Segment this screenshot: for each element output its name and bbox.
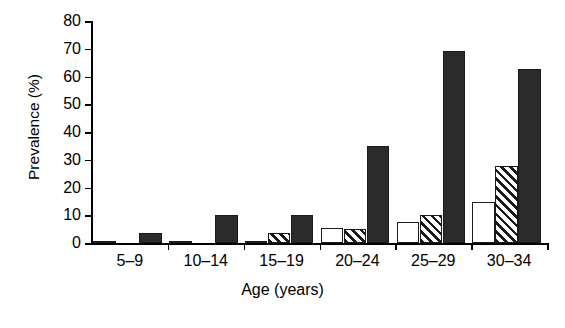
y-tick-mark [85, 21, 92, 23]
y-tick-mark [85, 104, 92, 106]
bar-open [93, 241, 116, 243]
x-tick-mark [547, 243, 549, 250]
bar-solid [367, 146, 390, 243]
bar-open [169, 241, 192, 243]
y-axis-title: Prevalence (%) [25, 7, 43, 247]
y-tick-mark [85, 77, 92, 79]
plot-area: 01020304050607080 [92, 21, 547, 243]
bar-group [395, 21, 471, 243]
x-tick-mark [244, 243, 246, 250]
bar-group [320, 21, 396, 243]
y-tick-label: 30 [63, 151, 81, 169]
bar-hatched [495, 166, 518, 243]
y-tick-label: 80 [63, 12, 81, 30]
y-tick-mark [85, 188, 92, 190]
y-tick-mark [85, 215, 92, 217]
bar-solid [215, 215, 238, 243]
y-tick-mark [85, 132, 92, 134]
bar-group [244, 21, 320, 243]
bar-solid [139, 233, 162, 243]
y-tick-label: 60 [63, 68, 81, 86]
y-tick-mark [85, 160, 92, 162]
x-tick-mark [471, 243, 473, 250]
x-tick-mark [168, 243, 170, 250]
bar-hatched [420, 215, 443, 243]
x-axis-title: Age (years) [0, 281, 565, 299]
bar-solid [518, 69, 541, 243]
bar-hatched [268, 233, 291, 243]
bar-group [168, 21, 244, 243]
bar-hatched [344, 229, 367, 243]
y-tick-label: 70 [63, 40, 81, 58]
y-tick-mark [85, 49, 92, 51]
bar-open [245, 241, 268, 243]
bar-solid [291, 215, 314, 243]
x-tick-label: 15–19 [259, 252, 304, 270]
y-tick-label: 50 [63, 95, 81, 113]
bar-open [397, 222, 420, 243]
chart-figure: Prevalence (%) 01020304050607080 5–910–1… [0, 0, 565, 328]
y-tick-label: 20 [63, 179, 81, 197]
x-tick-label: 10–14 [184, 252, 229, 270]
x-tick-mark [320, 243, 322, 250]
y-tick-label: 0 [72, 234, 81, 252]
bar-solid [443, 51, 466, 243]
y-tick-label: 40 [63, 123, 81, 141]
x-tick-label: 30–34 [487, 252, 532, 270]
y-tick-mark [85, 243, 92, 245]
x-tick-label: 25–29 [411, 252, 456, 270]
x-tick-label: 20–24 [335, 252, 380, 270]
x-tick-mark [395, 243, 397, 250]
bar-group [471, 21, 547, 243]
bar-open [472, 202, 495, 243]
y-tick-label: 10 [63, 206, 81, 224]
bar-open [321, 228, 344, 243]
bar-group [92, 21, 168, 243]
x-tick-label: 5–9 [117, 252, 144, 270]
